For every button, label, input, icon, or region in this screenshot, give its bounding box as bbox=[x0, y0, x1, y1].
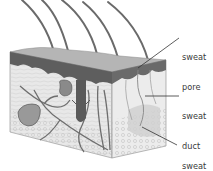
label-line: sweat bbox=[182, 161, 206, 171]
label-line: sweat bbox=[182, 52, 206, 62]
label-sweat-gland: sweat gland bbox=[182, 141, 206, 171]
skin-diagram: sweat pore sweat duct sweat gland bbox=[0, 0, 213, 171]
label-line: sweat bbox=[182, 111, 206, 121]
sebaceous-gland bbox=[60, 80, 73, 96]
hair-follicle bbox=[76, 80, 86, 122]
